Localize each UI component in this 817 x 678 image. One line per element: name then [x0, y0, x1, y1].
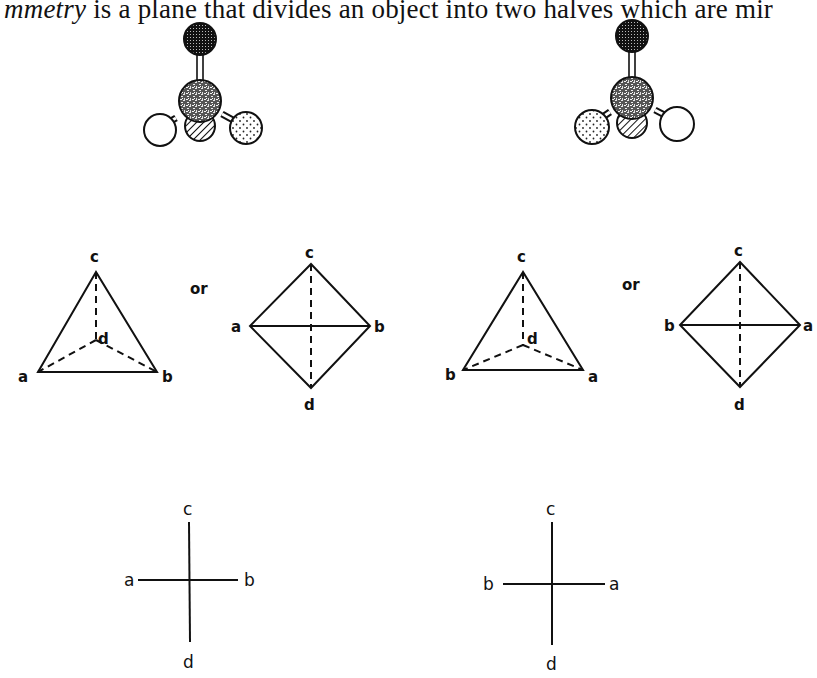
label-a: a: [803, 317, 813, 335]
label-d: d: [546, 654, 557, 674]
label-b: b: [162, 368, 173, 386]
label-c: c: [546, 499, 555, 519]
top-atom: [184, 23, 216, 55]
right-molecule: [575, 20, 694, 144]
label-b: b: [445, 366, 456, 384]
label-d: d: [98, 330, 109, 348]
label-b: b: [483, 574, 494, 594]
label-a: a: [231, 318, 241, 336]
label-b: b: [244, 570, 255, 590]
label-b: b: [664, 317, 675, 335]
label-d: d: [527, 330, 538, 348]
center-atom: [611, 77, 653, 119]
label-c: c: [90, 248, 99, 266]
label-a: a: [588, 368, 598, 386]
center-atom: [179, 80, 221, 122]
label-d: d: [304, 396, 315, 414]
right-tetrahedron: [463, 272, 583, 370]
label-a: a: [124, 570, 134, 590]
dotted-atom: [575, 110, 609, 144]
top-atom: [616, 20, 648, 52]
left-molecule: [144, 23, 262, 146]
white-atom: [144, 114, 176, 146]
label-c: c: [734, 242, 743, 260]
label-a: a: [609, 574, 619, 594]
label-b: b: [374, 318, 385, 336]
left-diamond: [250, 264, 370, 388]
label-d: d: [734, 396, 745, 414]
right-diamond: [680, 262, 800, 387]
or-label: or: [622, 276, 640, 294]
left-cross: [138, 522, 238, 642]
figure: c d a b or c a b d c d b a or c b a d c …: [0, 0, 817, 678]
dotted-atom: [230, 112, 262, 144]
left-tetrahedron: [38, 272, 157, 372]
label-a: a: [18, 368, 28, 386]
white-atom: [660, 107, 694, 141]
label-d: d: [183, 652, 194, 672]
right-cross: [503, 522, 605, 645]
or-label: or: [190, 280, 208, 298]
label-c: c: [517, 248, 526, 266]
label-c: c: [305, 244, 314, 262]
label-c: c: [183, 499, 192, 519]
